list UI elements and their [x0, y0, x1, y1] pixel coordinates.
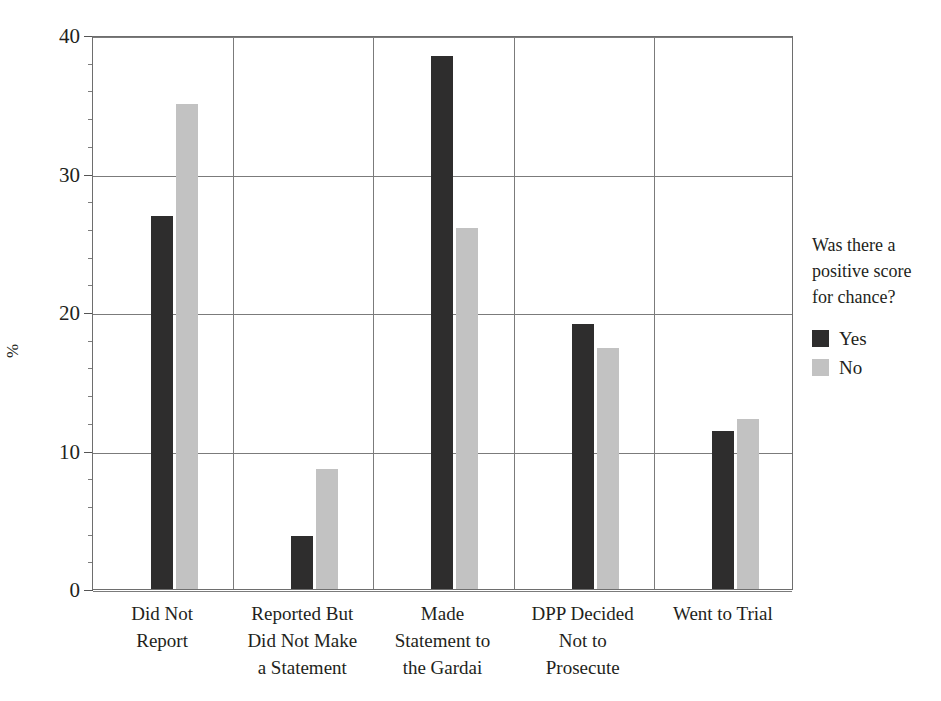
- bar-group: [373, 37, 513, 589]
- legend-item-no[interactable]: No: [812, 353, 937, 382]
- y-axis-labels: 40 30 20 10 0: [34, 36, 80, 590]
- x-axis-label-line: Not to: [513, 627, 653, 654]
- scan-artifact: [0, 0, 941, 10]
- y-axis-tick-label: 0: [70, 580, 81, 601]
- x-axis-label-line: Made: [372, 600, 512, 627]
- x-axis-label-line: Did Not: [92, 600, 232, 627]
- y-axis-title: %: [3, 343, 23, 357]
- x-axis-label-line: Reported But: [232, 600, 372, 627]
- y-axis-tick-label: 40: [59, 26, 80, 47]
- bar-group: [93, 37, 233, 589]
- x-axis-label-line: Went to Trial: [653, 600, 793, 627]
- legend-title-line: for chance?: [812, 284, 937, 310]
- legend-title-line: positive score: [812, 258, 937, 284]
- plot-area: [92, 36, 793, 590]
- bar-yes[interactable]: [572, 324, 594, 589]
- y-axis-tick-label: 10: [59, 441, 80, 462]
- bar-no[interactable]: [737, 419, 759, 589]
- x-axis-category-label: Went to Trial: [653, 600, 793, 627]
- x-axis-category-label: MadeStatement tothe Gardai: [372, 600, 512, 681]
- bar-no[interactable]: [316, 469, 338, 589]
- gridline-horizontal: [93, 591, 792, 592]
- legend-item-label: Yes: [839, 329, 867, 348]
- x-axis-label-line: Did Not Make: [232, 627, 372, 654]
- bar-yes[interactable]: [712, 431, 734, 589]
- bar-no[interactable]: [456, 228, 478, 589]
- y-axis-major-tick: [84, 590, 93, 591]
- x-axis-label-line: Statement to: [372, 627, 512, 654]
- bar-yes[interactable]: [291, 536, 313, 589]
- bar-chart: 40 30 20 10 0 % Did NotReportReported Bu…: [0, 0, 941, 701]
- light-swatch-icon: [812, 359, 829, 376]
- x-axis-category-label: DPP DecidedNot toProsecute: [513, 600, 653, 681]
- y-axis-tick-label: 30: [59, 164, 80, 185]
- bar-group: [514, 37, 654, 589]
- legend-title-line: Was there a: [812, 232, 937, 258]
- bar-yes[interactable]: [431, 56, 453, 589]
- legend-title: Was there a positive score for chance?: [812, 232, 937, 310]
- x-axis-category-label: Reported ButDid Not Makea Statement: [232, 600, 372, 681]
- x-axis-label-line: the Gardai: [372, 654, 512, 681]
- bar-group: [654, 37, 794, 589]
- x-axis-label-line: a Statement: [232, 654, 372, 681]
- dark-swatch-icon: [812, 330, 829, 347]
- bar-group: [233, 37, 373, 589]
- x-axis-category-label: Did NotReport: [92, 600, 232, 654]
- bar-no[interactable]: [597, 348, 619, 589]
- chart-legend: Was there a positive score for chance? Y…: [812, 232, 937, 382]
- x-axis-label-line: Prosecute: [513, 654, 653, 681]
- x-axis-labels: Did NotReportReported ButDid Not Makea S…: [92, 600, 793, 695]
- x-axis-label-line: DPP Decided: [513, 600, 653, 627]
- y-axis-tick-label: 20: [59, 303, 80, 324]
- legend-item-label: No: [839, 358, 862, 377]
- bar-yes[interactable]: [151, 216, 173, 589]
- x-axis-label-line: Report: [92, 627, 232, 654]
- bar-no[interactable]: [176, 104, 198, 589]
- legend-item-yes[interactable]: Yes: [812, 324, 937, 353]
